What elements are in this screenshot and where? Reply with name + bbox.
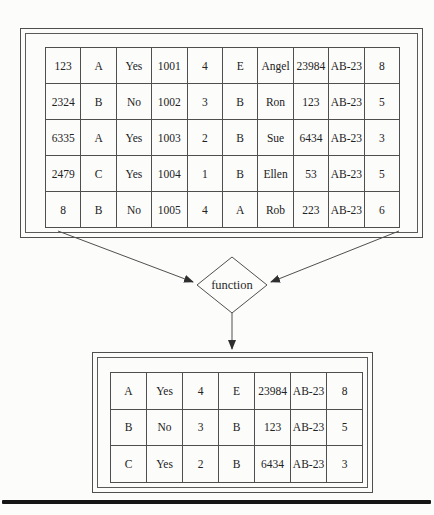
table-cell: E	[219, 373, 255, 410]
table-cell: 5	[364, 156, 399, 192]
table-cell: 1004	[152, 156, 187, 192]
table-cell: B	[219, 409, 255, 446]
table-cell: Ellen	[258, 156, 293, 192]
table-cell: Rob	[258, 192, 293, 228]
table-cell: 8	[327, 373, 363, 410]
table-cell: 23984	[293, 48, 328, 84]
result-table: A Yes 4 E 23984 AB-23 8 B No 3 B 123 AB-…	[110, 372, 363, 483]
table-cell: 3	[183, 409, 219, 446]
table-cell: Sue	[258, 120, 293, 156]
table-cell: 2324	[46, 84, 81, 120]
table-row: B No 3 B 123 AB-23 5	[111, 409, 363, 446]
table-cell: C	[81, 156, 116, 192]
table-cell: AB-23	[291, 446, 327, 483]
table-cell: B	[111, 409, 147, 446]
table-row: 8 B No 1005 4 A Rob 223 AB-23 6	[46, 192, 400, 228]
table-cell: C	[111, 446, 147, 483]
table-row: 2479 C Yes 1004 1 B Ellen 53 AB-23 5	[46, 156, 400, 192]
page-bottom-rule	[2, 500, 431, 504]
table-cell: 3	[187, 84, 222, 120]
table-row: C Yes 2 B 6434 AB-23 3	[111, 446, 363, 483]
table-cell: 5	[327, 409, 363, 446]
table-cell: 8	[46, 192, 81, 228]
table-cell: 6434	[255, 446, 291, 483]
table-cell: Yes	[116, 120, 151, 156]
table-cell: No	[147, 409, 183, 446]
table-cell: 6434	[293, 120, 328, 156]
table-cell: 1003	[152, 120, 187, 156]
table-cell: 123	[293, 84, 328, 120]
table-row: 6335 A Yes 1003 2 B Sue 6434 AB-23 3	[46, 120, 400, 156]
table-cell: AB-23	[329, 84, 364, 120]
table-cell: 1001	[152, 48, 187, 84]
table-cell: 1002	[152, 84, 187, 120]
table-row: 2324 B No 1002 3 B Ron 123 AB-23 5	[46, 84, 400, 120]
figure-canvas: 123 A Yes 1001 4 E Angel 23984 AB-23 8 2…	[0, 0, 434, 515]
table-cell: 3	[327, 446, 363, 483]
table-cell: A	[222, 192, 257, 228]
table-cell: A	[81, 48, 116, 84]
table-cell: 4	[187, 48, 222, 84]
table-cell: B	[222, 84, 257, 120]
table-cell: 1	[187, 156, 222, 192]
table-cell: No	[116, 192, 151, 228]
table-cell: 2	[183, 446, 219, 483]
table-cell: B	[222, 120, 257, 156]
table-cell: AB-23	[329, 48, 364, 84]
function-node-label: function	[197, 278, 267, 293]
table-cell: A	[111, 373, 147, 410]
table-cell: Yes	[147, 373, 183, 410]
table-cell: Yes	[116, 48, 151, 84]
table-cell: B	[81, 192, 116, 228]
table-cell: B	[222, 156, 257, 192]
table-cell: AB-23	[291, 409, 327, 446]
table-cell: Yes	[147, 446, 183, 483]
table-cell: 4	[187, 192, 222, 228]
table-cell: B	[81, 84, 116, 120]
table-cell: AB-23	[329, 156, 364, 192]
table-cell: 2479	[46, 156, 81, 192]
table-cell: AB-23	[291, 373, 327, 410]
arrow-left	[58, 231, 193, 282]
table-row: A Yes 4 E 23984 AB-23 8	[111, 373, 363, 410]
table-cell: No	[116, 84, 151, 120]
table-cell: Angel	[258, 48, 293, 84]
table-cell: 223	[293, 192, 328, 228]
arrow-right	[271, 231, 399, 282]
table-cell: B	[219, 446, 255, 483]
table-cell: E	[222, 48, 257, 84]
table-cell: AB-23	[329, 192, 364, 228]
table-row: 123 A Yes 1001 4 E Angel 23984 AB-23 8	[46, 48, 400, 84]
source-table: 123 A Yes 1001 4 E Angel 23984 AB-23 8 2…	[45, 47, 400, 228]
table-cell: 2	[187, 120, 222, 156]
table-cell: Ron	[258, 84, 293, 120]
table-cell: 23984	[255, 373, 291, 410]
table-cell: 4	[183, 373, 219, 410]
table-cell: AB-23	[329, 120, 364, 156]
table-cell: 6335	[46, 120, 81, 156]
table-cell: 5	[364, 84, 399, 120]
table-cell: 6	[364, 192, 399, 228]
table-cell: 3	[364, 120, 399, 156]
table-cell: 53	[293, 156, 328, 192]
table-cell: A	[81, 120, 116, 156]
table-cell: 1005	[152, 192, 187, 228]
table-cell: 123	[46, 48, 81, 84]
table-cell: 123	[255, 409, 291, 446]
table-cell: 8	[364, 48, 399, 84]
table-cell: Yes	[116, 156, 151, 192]
